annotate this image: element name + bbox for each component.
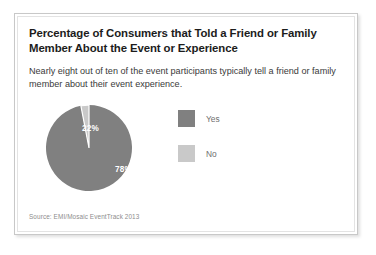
chart-legend: Yes No	[178, 110, 220, 180]
legend-item-no[interactable]: No	[178, 145, 220, 162]
figure-description: Nearly eight out of ten of the event par…	[29, 65, 337, 90]
plot-area: 22% 78% Yes No	[18, 103, 354, 207]
pie-chart-svg	[45, 103, 133, 193]
source-note: Source: EMI/Mosaic EventTrack 2013	[29, 213, 139, 220]
legend-label-yes: Yes	[206, 114, 220, 124]
figure-card-inner: Percentage of Consumers that Told a Frie…	[17, 16, 355, 232]
legend-swatch-yes	[178, 110, 195, 127]
pie-label-yes: 78%	[115, 165, 132, 174]
pie-label-no: 22%	[82, 124, 99, 133]
legend-item-yes[interactable]: Yes	[178, 110, 220, 127]
pie-chart: 22% 78%	[45, 103, 133, 193]
page-title: Percentage of Consumers that Told a Frie…	[29, 26, 339, 55]
legend-label-no: No	[206, 149, 217, 159]
figure-card: Percentage of Consumers that Told a Frie…	[14, 13, 358, 235]
legend-swatch-no	[178, 145, 195, 162]
